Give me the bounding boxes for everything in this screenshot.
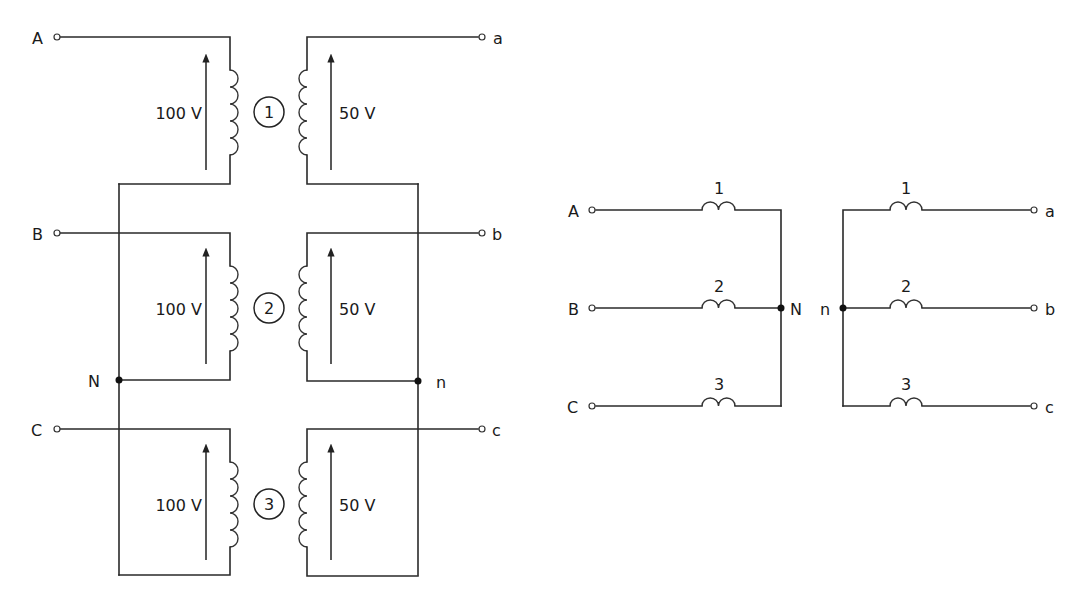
label-b: b [492, 225, 502, 244]
secondary-coil-3-icon [890, 398, 922, 406]
terminal-c-icon [1031, 403, 1037, 409]
unit3-secondary-return [307, 547, 418, 576]
secondary-coil-2-icon [890, 300, 922, 308]
label-c: c [492, 421, 501, 440]
label-n: n [820, 300, 830, 319]
terminal-b-icon [1031, 305, 1037, 311]
line-b-wire [307, 233, 478, 266]
primary-coil-icon [230, 462, 238, 547]
neutral-node-n-icon [840, 305, 847, 312]
unit-number-2: 2 [264, 299, 274, 318]
secondary-voltage-1: 50 V [339, 104, 375, 123]
unit2-secondary-return [307, 351, 418, 381]
terminal-c-icon [479, 426, 485, 432]
primary-coil-icon [230, 266, 238, 351]
unit-number-1: 1 [264, 103, 274, 122]
label-b: b [1045, 300, 1055, 319]
label-C: C [31, 421, 42, 440]
left-physical-diagram: A B C a b c N n 1 2 3 100 V 50 V 100 V 5… [31, 29, 503, 576]
label-A: A [568, 202, 579, 221]
label-c: c [1045, 398, 1054, 417]
neutral-node-N-icon [778, 305, 785, 312]
label-B: B [568, 300, 579, 319]
right-schematic-diagram: A B C N 1 2 3 a b c n [567, 179, 1055, 417]
winding-label-3: 3 [901, 375, 911, 394]
terminal-B-icon [54, 230, 60, 236]
neutral-node-n-icon [415, 378, 422, 385]
unit-number-3: 3 [264, 495, 274, 514]
winding-label-3: 3 [714, 375, 724, 394]
terminal-a-icon [479, 34, 485, 40]
line-c-wire [307, 429, 478, 462]
label-A: A [32, 29, 43, 48]
terminal-A-icon [589, 207, 595, 213]
winding-label-2: 2 [714, 277, 724, 296]
winding-label-2: 2 [901, 277, 911, 296]
label-N: N [88, 372, 100, 391]
label-C: C [567, 398, 578, 417]
winding-label-1: 1 [901, 179, 911, 198]
secondary-coil-1-icon [890, 202, 922, 210]
line-C-wire [60, 429, 230, 462]
terminal-B-icon [589, 305, 595, 311]
secondary-coil-icon [299, 70, 307, 155]
neutral-node-N-icon [116, 377, 123, 384]
line-B-wire [60, 233, 230, 266]
primary-voltage-3: 100 V [155, 496, 202, 515]
terminal-b-icon [479, 230, 485, 236]
secondary-coil-icon [299, 266, 307, 351]
primary-wye: A B C N 1 2 3 [567, 179, 802, 417]
line-a-wire [307, 37, 478, 70]
secondary-wye: a b c n 1 2 3 [820, 179, 1055, 417]
terminal-C-icon [589, 403, 595, 409]
primary-coil-3-icon [702, 398, 735, 406]
secondary-voltage-2: 50 V [339, 300, 375, 319]
terminal-A-icon [54, 34, 60, 40]
label-a: a [1045, 202, 1055, 221]
primary-coil-icon [230, 70, 238, 155]
secondary-voltage-3: 50 V [339, 496, 375, 515]
terminal-C-icon [54, 426, 60, 432]
transformer-diagram-canvas: A B C a b c N n 1 2 3 100 V 50 V 100 V 5… [0, 0, 1081, 606]
primary-voltage-1: 100 V [155, 104, 202, 123]
unit1-primary-return [119, 155, 230, 184]
primary-coil-1-icon [702, 202, 735, 210]
label-n: n [436, 373, 446, 392]
unit3-primary-return [119, 547, 230, 575]
winding-label-1: 1 [714, 179, 724, 198]
primary-coil-2-icon [702, 300, 735, 308]
line-A-wire [60, 37, 230, 70]
unit2-primary-return [119, 351, 230, 380]
unit1-secondary-return [307, 155, 418, 184]
terminal-a-icon [1031, 207, 1037, 213]
label-a: a [493, 29, 503, 48]
label-N: N [790, 300, 802, 319]
label-B: B [32, 225, 43, 244]
primary-voltage-2: 100 V [155, 300, 202, 319]
secondary-coil-icon [299, 462, 307, 547]
